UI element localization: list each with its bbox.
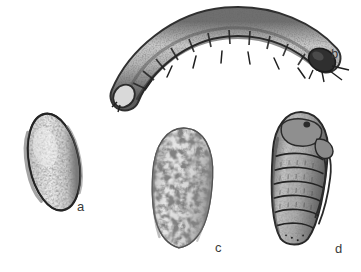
figure-larva — [109, 12, 349, 112]
illustration-plate: a b c d — [0, 0, 361, 272]
figure-label-b: b — [331, 47, 338, 60]
figure-label-d: d — [335, 242, 342, 255]
plate-artwork — [0, 0, 361, 272]
figure-label-a: a — [77, 200, 84, 213]
figure-pupa — [266, 110, 335, 247]
figure-label-c: c — [215, 241, 222, 254]
figure-cocoon — [149, 127, 215, 250]
